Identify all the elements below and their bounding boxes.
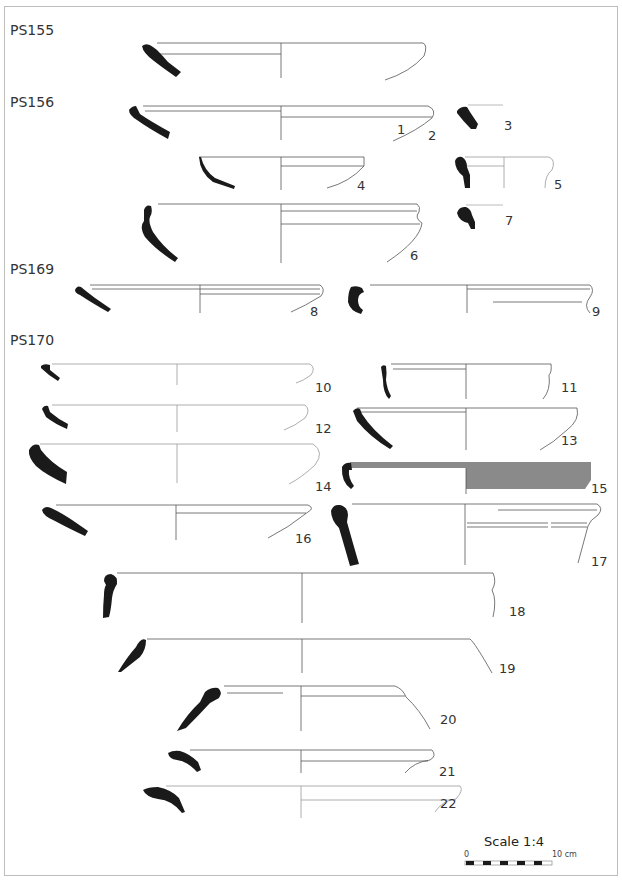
scale-start-label: 0 xyxy=(464,850,469,859)
vessel-6-drawing xyxy=(158,204,422,263)
vessel-number: 1 xyxy=(397,122,405,137)
sherd-11 xyxy=(381,365,391,399)
group-label-ps170: PS170 xyxy=(10,332,54,348)
group-label-ps156: PS156 xyxy=(10,94,54,110)
sherd-9 xyxy=(348,286,364,314)
scale-bar-graphic xyxy=(465,861,552,865)
vessel-5-drawing xyxy=(465,157,553,188)
sherd-7 xyxy=(457,207,475,229)
vessel-number: 15 xyxy=(591,481,608,496)
vessel-number: 12 xyxy=(315,421,332,436)
vessel-15-drawing xyxy=(350,462,591,494)
vessel-10-drawing xyxy=(52,364,313,385)
sherd-6 xyxy=(142,206,178,263)
sherd-22 xyxy=(143,787,185,813)
vessel-9-drawing xyxy=(370,285,593,313)
vessel-number: 14 xyxy=(315,479,332,494)
vessel-number: 8 xyxy=(310,304,318,319)
vessel-number: 18 xyxy=(509,604,526,619)
vessel-number: 7 xyxy=(505,213,513,228)
pottery-drawings xyxy=(0,0,622,888)
vessel-number: 11 xyxy=(561,380,578,395)
vessel-11-drawing xyxy=(391,364,551,399)
vessel-16-drawing xyxy=(56,505,312,540)
vessel-number: 4 xyxy=(357,178,365,193)
vessel-19-drawing xyxy=(147,639,492,673)
vessel-13-drawing xyxy=(357,408,578,450)
sherd-20 xyxy=(177,688,221,731)
vessel-number: 10 xyxy=(315,380,332,395)
vessel-number: 21 xyxy=(439,764,456,779)
vessel-number: 13 xyxy=(561,433,578,448)
vessel-2-drawing xyxy=(143,106,434,141)
vessel-8-drawing xyxy=(90,285,323,313)
vessel-number: 19 xyxy=(499,661,516,676)
vessel-17-drawing xyxy=(352,504,601,565)
vessel-number: 17 xyxy=(591,554,608,569)
sherd-8 xyxy=(75,286,111,312)
vessel-18-drawing xyxy=(117,573,495,623)
scale-end-label: 10 cm xyxy=(552,850,577,859)
vessel-number: 16 xyxy=(295,531,312,546)
vessel-number: 6 xyxy=(410,248,418,263)
sherd-10 xyxy=(41,364,60,381)
sherd-1 xyxy=(142,44,181,77)
sherd-13 xyxy=(353,408,393,449)
vessel-12-drawing xyxy=(52,405,308,432)
group-label-ps169: PS169 xyxy=(10,261,54,277)
sherd-3 xyxy=(457,107,478,129)
group-label-ps155: PS155 xyxy=(10,22,54,38)
vessel-number: 9 xyxy=(592,304,600,319)
sherd-5 xyxy=(455,157,470,188)
vessel-14-drawing xyxy=(40,444,320,484)
sherd-17 xyxy=(331,505,359,566)
vessel-22-drawing xyxy=(166,786,461,818)
sherd-16 xyxy=(42,507,88,536)
vessel-number: 22 xyxy=(440,796,457,811)
vessel-number: 20 xyxy=(440,712,457,727)
vessel-number: 3 xyxy=(504,118,512,133)
vessel-number: 2 xyxy=(428,128,436,143)
sherd-12 xyxy=(42,406,68,429)
sherd-4 xyxy=(199,157,235,189)
scale-title: Scale 1:4 xyxy=(484,834,544,849)
sherd-21 xyxy=(168,751,201,772)
sherd-18 xyxy=(103,574,117,618)
sherd-14 xyxy=(29,445,67,484)
vessel-number: 5 xyxy=(554,177,562,192)
sherd-19 xyxy=(118,639,146,672)
vessel-20-drawing xyxy=(224,686,430,731)
vessel-1-drawing xyxy=(157,43,426,80)
vessel-21-drawing xyxy=(190,750,434,773)
